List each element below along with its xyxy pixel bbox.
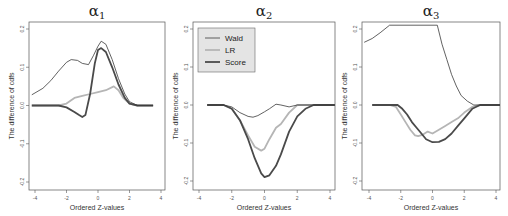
chart-title: α2 (256, 2, 273, 21)
series-score-line (32, 48, 153, 117)
x-axis-label: Ordered Z-values (237, 204, 292, 211)
y-tick-label: 0.0 (352, 101, 358, 108)
y-tick-label: 0.2 (352, 25, 358, 32)
chart-title: α1 (89, 2, 106, 21)
legend: WaldLRScore (198, 28, 255, 72)
figure: -4-20240.20.10.0-0.1-0.2Ordered Z-values… (0, 0, 508, 216)
y-axis-label: The difference of cdfs (341, 72, 348, 140)
series-lr-line (372, 105, 501, 136)
y-tick-label: 0.1 (19, 64, 25, 71)
x-tick-label: -4 (197, 195, 202, 201)
y-tick-label: -0.1 (19, 139, 25, 148)
chart-title: α3 (423, 2, 440, 21)
x-tick-label: 4 (329, 195, 332, 201)
y-tick-label: 0.1 (352, 63, 358, 70)
x-axis-label: Ordered Z-values (404, 204, 459, 211)
y-tick-label: -0.1 (183, 138, 189, 147)
series-score-line (207, 105, 335, 177)
series-wald-line (364, 25, 501, 105)
y-tick-label: -0.2 (183, 176, 189, 185)
panel-alpha1: -4-20240.20.10.0-0.1-0.2Ordered Z-values… (8, 2, 165, 211)
x-tick-label: 0 (431, 195, 434, 201)
y-tick-label: 0.0 (183, 101, 189, 108)
x-tick-label: -2 (230, 195, 235, 201)
x-tick-label: 2 (463, 195, 466, 201)
y-axis-label: The difference of cdfs (172, 72, 179, 140)
x-tick-label: 2 (296, 195, 299, 201)
legend-label-wald: Wald (225, 34, 243, 43)
y-tick-label: 0.0 (19, 102, 25, 109)
panel-alpha3: -4-20240.20.10.0-0.1-0.2Ordered Z-values… (341, 2, 501, 211)
y-tick-label: 0.1 (183, 63, 189, 70)
x-tick-label: 2 (128, 195, 131, 201)
y-tick-label: -0.2 (352, 176, 358, 185)
x-tick-label: -2 (399, 195, 404, 201)
legend-label-score: Score (225, 58, 246, 67)
x-tick-label: 4 (495, 195, 498, 201)
x-tick-label: -2 (64, 195, 69, 201)
series-score-line (372, 105, 501, 142)
x-tick-label: -4 (33, 195, 38, 201)
y-tick-label: -0.1 (352, 138, 358, 147)
legend-label-lr: LR (225, 46, 235, 55)
x-tick-label: 0 (263, 195, 266, 201)
y-tick-label: 0.2 (19, 25, 25, 32)
series-lr-line (207, 105, 335, 151)
x-axis-label: Ordered Z-values (70, 204, 125, 211)
y-tick-label: 0.2 (183, 25, 189, 32)
y-axis-label: The difference of cdfs (8, 72, 15, 140)
x-tick-label: 4 (160, 195, 163, 201)
series-lr-line (32, 86, 153, 105)
x-tick-label: 0 (97, 195, 100, 201)
y-tick-label: -0.2 (19, 177, 25, 186)
x-tick-label: -4 (367, 195, 372, 201)
